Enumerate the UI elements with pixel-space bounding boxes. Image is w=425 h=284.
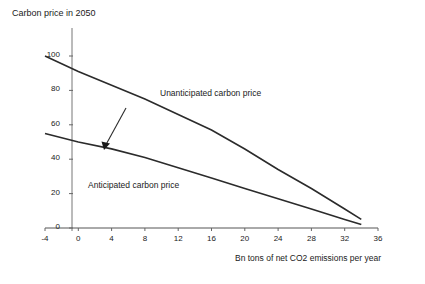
- y-tick-label-20: 20: [36, 188, 60, 197]
- y-tick-label-60: 60: [36, 119, 60, 128]
- x-tick-label-16: 16: [202, 234, 222, 243]
- x-tick-label-36: 36: [368, 234, 388, 243]
- x-tick-label-minus4: -4: [35, 234, 55, 243]
- y-tick-label-0: 0: [36, 222, 60, 231]
- series-label-anticipated: Anticipated carbon price: [88, 180, 179, 190]
- annotation-arrow: [102, 108, 127, 150]
- y-tick-label-80: 80: [36, 84, 60, 93]
- chart-figure: Carbon price in 2050: [0, 0, 425, 284]
- series-line-anticipated: [45, 133, 361, 224]
- y-tick-label-40: 40: [36, 153, 60, 162]
- x-tick-label-0: 0: [68, 234, 88, 243]
- x-tick-label-32: 32: [335, 234, 355, 243]
- series-label-unanticipated: Unanticipated carbon price: [160, 88, 261, 98]
- y-tick-label-100: 100: [36, 50, 60, 59]
- x-axis-title: Bn tons of net CO2 emissions per year: [235, 253, 381, 263]
- x-tick-label-12: 12: [168, 234, 188, 243]
- x-tick-label-28: 28: [301, 234, 321, 243]
- x-tick-label-8: 8: [135, 234, 155, 243]
- series-line-unanticipated: [45, 56, 361, 219]
- x-tick-label-4: 4: [102, 234, 122, 243]
- x-tick-label-24: 24: [268, 234, 288, 243]
- x-tick-label-20: 20: [235, 234, 255, 243]
